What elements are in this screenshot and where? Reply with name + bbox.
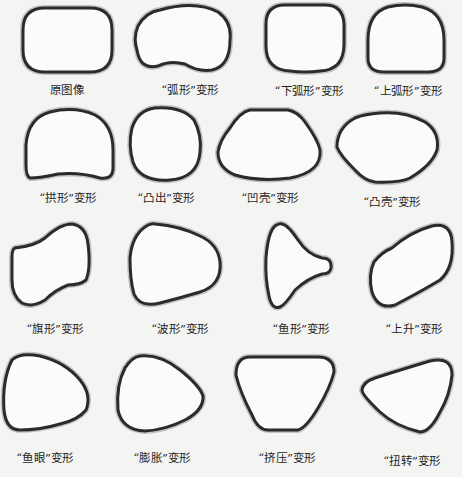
caption-fish: “鱼形”变形 bbox=[272, 320, 330, 336]
shape-squeeze bbox=[236, 357, 334, 430]
shape-arc bbox=[135, 5, 230, 70]
shape-arc-lower bbox=[266, 5, 344, 72]
shape-arc-upper bbox=[368, 5, 444, 72]
shape-bulge bbox=[130, 108, 200, 180]
shape-fish bbox=[266, 224, 331, 308]
shape-shell-lower bbox=[218, 110, 320, 179]
caption-inflate: “膨胀”变形 bbox=[133, 449, 191, 465]
shape-fisheye bbox=[4, 355, 88, 430]
caption-bulge: “凸出”变形 bbox=[137, 189, 195, 205]
caption-rise: “上升”变形 bbox=[385, 320, 443, 336]
caption-shell-upper: “凸壳”变形 bbox=[363, 193, 421, 209]
shape-arch bbox=[26, 110, 113, 179]
shape-twist bbox=[362, 360, 452, 432]
shape-rise bbox=[370, 225, 452, 306]
caption-wave: “波形”变形 bbox=[151, 320, 209, 336]
caption-fisheye: “鱼眼”变形 bbox=[16, 449, 74, 465]
caption-arc-lower: “下弧形”变形 bbox=[275, 82, 344, 98]
shape-flag bbox=[12, 224, 89, 305]
caption-twist: “扭转”变形 bbox=[383, 452, 441, 468]
shape-wave bbox=[130, 224, 220, 305]
caption-flag: “旗形”变形 bbox=[26, 320, 84, 336]
shape-inflate bbox=[118, 356, 203, 431]
caption-arch: “拱形”变形 bbox=[39, 189, 97, 205]
caption-arc: “弧形”变形 bbox=[161, 81, 219, 97]
warp-shapes-canvas bbox=[0, 0, 462, 477]
caption-original: 原图像 bbox=[50, 81, 84, 97]
caption-arc-upper: “上弧形”变形 bbox=[374, 82, 443, 98]
caption-squeeze: “挤压”变形 bbox=[258, 449, 316, 465]
shape-shell-upper bbox=[337, 113, 438, 182]
shape-original bbox=[23, 8, 112, 72]
warp-styles-figure: 原图像 “弧形”变形 “下弧形”变形 “上弧形”变形 “拱形”变形 “凸出”变形… bbox=[0, 0, 462, 477]
caption-shell-lower: “凹壳”变形 bbox=[241, 189, 299, 205]
